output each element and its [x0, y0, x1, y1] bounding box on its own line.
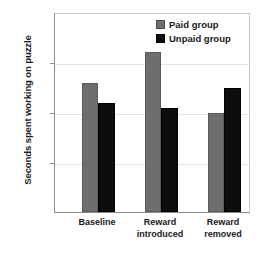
bar-reward-introduced-unpaid-group — [161, 108, 178, 212]
legend-item-unpaid-group: Unpaid group — [156, 33, 231, 44]
x-axis-tick-label-line: Reward — [181, 217, 262, 229]
chart-legend: Paid groupUnpaid group — [156, 19, 231, 44]
legend-item-paid-group: Paid group — [156, 19, 231, 30]
bar-reward-removed-paid-group — [208, 113, 225, 213]
bar-baseline-unpaid-group — [98, 103, 115, 212]
legend-swatch-icon — [156, 34, 165, 43]
bar-reward-removed-unpaid-group — [224, 88, 241, 212]
x-axis-tick-label-line: removed — [181, 229, 262, 241]
bar-baseline-paid-group — [82, 83, 99, 212]
legend-label: Paid group — [169, 19, 219, 30]
legend-label: Unpaid group — [169, 33, 231, 44]
legend-swatch-icon — [156, 20, 165, 29]
x-axis-tick-label: Rewardremoved — [181, 217, 262, 240]
y-axis-title: Seconds spent working on puzzle — [22, 10, 33, 210]
bar-reward-introduced-paid-group — [145, 52, 162, 212]
bar-chart: Seconds spent working on puzzle 01002003… — [0, 0, 262, 255]
